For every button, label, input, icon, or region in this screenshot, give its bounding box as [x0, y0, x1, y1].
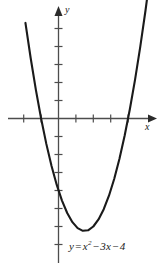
y-axis-label: y	[65, 5, 69, 15]
equation-minus-1: −	[92, 240, 101, 252]
arrow-up-icon	[55, 6, 63, 16]
equation-minus-2: −	[111, 240, 120, 252]
equation-constant: 4	[120, 240, 126, 252]
x-axis-label: x	[145, 122, 149, 132]
equation-label: y=x2−3x−4	[69, 239, 126, 252]
plot-canvas	[0, 0, 161, 276]
quadratic-graph-figure: y x y=x2−3x−4	[0, 0, 161, 276]
equation-equals: =	[74, 240, 83, 252]
equation-term-3x: 3x	[100, 240, 111, 252]
parabola-curve	[25, 0, 150, 231]
